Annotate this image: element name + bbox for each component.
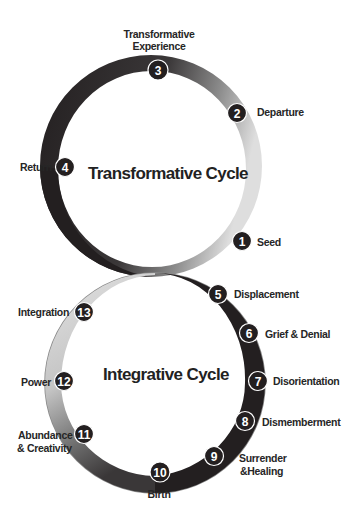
transformative-cycle-title: Transformative Cycle [88, 164, 248, 183]
stage-label-line1: Surrender [239, 452, 287, 464]
stage-label-line1: Abundance [18, 429, 73, 441]
stage-8-dismemberment: 8 Dismemberment [236, 412, 342, 431]
stage-label: Grief & Denial [265, 328, 331, 340]
stage-label: Displacement [234, 288, 299, 300]
stage-number: 6 [246, 327, 253, 341]
stage-label: Disorientation [273, 375, 339, 387]
stage-label-line1: Transformative [123, 28, 195, 40]
stage-label-line2: & Creativity [17, 442, 72, 454]
stage-5-displacement: 5 Displacement [209, 285, 300, 304]
stage-1-seed: 1 Seed [233, 232, 281, 251]
stage-number: 13 [77, 306, 91, 320]
stage-number: 10 [153, 466, 167, 480]
integrative-cycle-title: Integrative Cycle [103, 365, 229, 384]
stage-number: 4 [62, 161, 69, 175]
stage-number: 7 [255, 375, 262, 389]
stage-label: Return [20, 161, 52, 173]
stage-number: 9 [211, 450, 218, 464]
stage-label: Power [21, 376, 51, 388]
cycles-diagram: Transformative Cycle Integrative Cycle 1… [0, 0, 354, 525]
stage-number: 3 [155, 64, 162, 78]
stage-7-disorientation: 7 Disorientation [249, 372, 340, 391]
stage-label-line2: Experience [132, 40, 185, 52]
stage-number: 2 [234, 107, 241, 121]
stage-number: 11 [78, 428, 91, 442]
stage-6-grief-denial: 6 Grief & Denial [240, 324, 331, 343]
stage-label-line2: &Healing [240, 465, 283, 477]
stage-number: 5 [215, 288, 222, 302]
stage-number: 1 [239, 235, 246, 249]
stage-label: Dismemberment [262, 416, 341, 428]
stage-number: 12 [57, 375, 71, 389]
stage-label: Seed [257, 236, 281, 248]
stage-13-integration: 13 Integration [18, 303, 93, 322]
stage-label: Integration [18, 306, 69, 318]
stage-label: Departure [257, 106, 304, 118]
stage-2-departure: 2 Departure [228, 104, 305, 123]
stage-label: Birth [148, 488, 171, 500]
stage-number: 8 [242, 415, 249, 429]
